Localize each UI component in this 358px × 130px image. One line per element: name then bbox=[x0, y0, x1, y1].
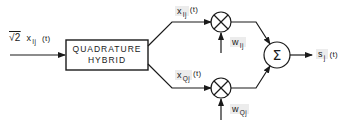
block-diagram: Σ bbox=[0, 0, 358, 130]
s-suffix: (t) bbox=[330, 50, 338, 59]
xq-suffix: (t) bbox=[193, 69, 201, 78]
hybrid-line2: HYBRID bbox=[88, 55, 126, 66]
quadrature-weight-label: wQj bbox=[230, 104, 249, 114]
xi-suffix: (t) bbox=[190, 5, 198, 14]
wq-var: w bbox=[232, 104, 239, 114]
input-suffix: (t) bbox=[42, 34, 50, 43]
s-sub: j bbox=[324, 54, 326, 61]
in-phase-branch-line bbox=[148, 22, 211, 46]
sqrt2-prefix: √2 bbox=[9, 32, 21, 43]
quadrature-multiplier-icon bbox=[211, 78, 231, 98]
quadrature-signal-label: xQj(t) bbox=[175, 70, 201, 80]
quadrature-to-summer-line bbox=[231, 66, 270, 88]
xq-var: x bbox=[177, 70, 182, 80]
xq-sub: Qj bbox=[183, 75, 190, 82]
wq-sub: Qj bbox=[240, 109, 247, 116]
wi-sub: Ij bbox=[240, 42, 244, 49]
in-phase-signal-label: xIj(t) bbox=[175, 6, 198, 16]
xi-sub: Ij bbox=[183, 11, 187, 18]
input-sub: Ij bbox=[32, 38, 36, 45]
xi-var: x bbox=[177, 6, 182, 16]
input-var: x bbox=[26, 33, 31, 43]
hybrid-block-label: QUADRATURE HYBRID bbox=[66, 40, 148, 70]
s-var: s bbox=[318, 49, 323, 59]
output-signal-label: sj(t) bbox=[316, 49, 338, 59]
in-phase-multiplier-icon bbox=[211, 12, 231, 32]
hybrid-line1: QUADRATURE bbox=[73, 44, 142, 55]
summer-symbol: Σ bbox=[273, 47, 282, 63]
input-signal-label: √2 xIj (t) bbox=[9, 32, 50, 43]
in-phase-weight-label: wIj bbox=[230, 37, 246, 47]
wi-var: w bbox=[232, 37, 239, 47]
